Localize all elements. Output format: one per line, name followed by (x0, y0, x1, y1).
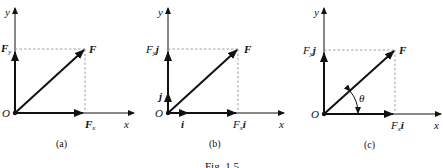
vector-label: F (398, 44, 407, 56)
panel-c: y x O F θ Fyj Fxi (c) (302, 6, 441, 151)
x-axis-label: x (123, 118, 129, 130)
x-component-label: Fx (84, 118, 96, 132)
angle-arc (350, 91, 358, 113)
force-vector-arrow (324, 51, 394, 114)
origin-dot (166, 111, 170, 115)
y-component-label: Fyj (302, 44, 317, 58)
vector-decomposition-figure: y x O F Fy Fx (a) y x O F Fyj Fxi j (0, 0, 443, 168)
y-axis-label: y (157, 6, 163, 18)
y-component-label: Fyj (145, 43, 160, 57)
origin-dot (13, 111, 17, 115)
x-component-label: Fxi (232, 118, 247, 132)
origin-dot (322, 112, 326, 116)
origin-label: O (155, 107, 163, 119)
y-component-label: Fy (0, 42, 12, 56)
panel-a: y x O F Fy Fx (a) (0, 6, 134, 150)
panel-b: y x O F Fyj Fxi j i (b) (145, 6, 284, 150)
angle-label: θ (359, 92, 365, 104)
figure-caption: Fig. 1.5 (205, 160, 239, 168)
origin-label: O (2, 107, 10, 119)
x-component-label: Fxi (390, 119, 405, 133)
x-axis-label: x (278, 118, 284, 130)
vector-label: F (88, 43, 97, 55)
y-axis-label: y (313, 6, 319, 18)
panel-label: (b) (209, 138, 221, 150)
vector-label: F (243, 43, 252, 55)
force-vector-arrow (15, 50, 84, 113)
origin-label: O (311, 108, 319, 120)
x-axis-label: x (433, 119, 439, 131)
y-axis-label: y (4, 6, 10, 18)
unit-vector-j-label: j (157, 90, 163, 102)
panel-label: (a) (56, 138, 67, 150)
unit-vector-i-label: i (181, 118, 185, 130)
force-vector-arrow (168, 50, 237, 113)
panel-label: (c) (364, 139, 375, 151)
